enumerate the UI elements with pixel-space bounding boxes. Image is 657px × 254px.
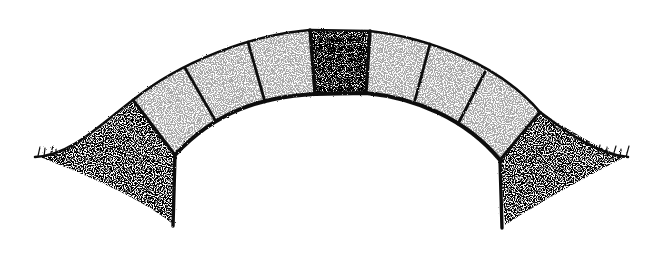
- keystone: [310, 30, 370, 94]
- arch-illustration: [0, 0, 657, 254]
- arch-drawing: [0, 0, 657, 254]
